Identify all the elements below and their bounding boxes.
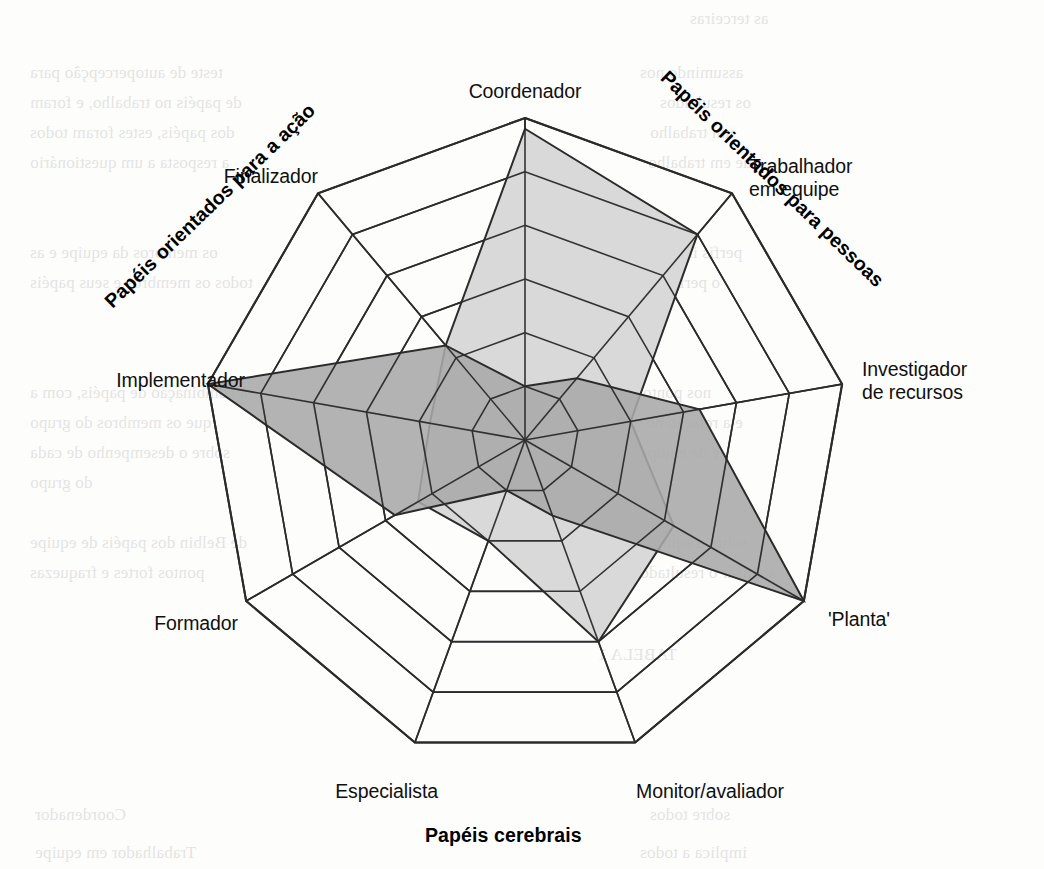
axis-label-monitor-avaliador: Monitor/avaliador: [636, 780, 876, 803]
radar-chart: [0, 0, 1044, 869]
group-label-cerebral: Papéis cerebrais: [425, 824, 582, 847]
axis-label-planta: 'Planta': [828, 608, 968, 631]
radar-series-1: [208, 345, 804, 601]
axis-label-investigador-de-recursos: Investigadorde recursos: [862, 358, 1044, 404]
axis-label-implementador: Implementador: [10, 369, 245, 392]
axis-label-finalizador: Finalizador: [98, 165, 318, 188]
axis-label-formador: Formador: [28, 612, 238, 635]
radar-series-group: [208, 129, 804, 642]
axis-label-especialista: Especialista: [168, 780, 438, 803]
axis-label-coordenador: Coordenador: [400, 80, 650, 103]
figure-page: as terceirasteste de autopercepção paraa…: [0, 0, 1044, 869]
